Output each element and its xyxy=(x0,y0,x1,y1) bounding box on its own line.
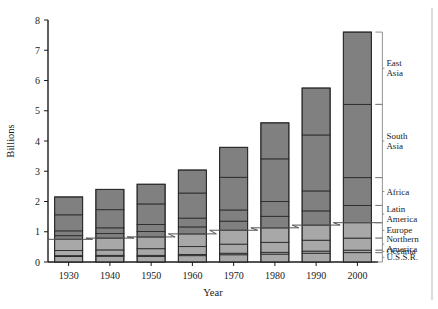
y-tick-label: 3 xyxy=(35,166,40,177)
bar-segment xyxy=(220,255,248,262)
x-tick-label: 2000 xyxy=(347,270,367,281)
y-axis-title: Billions xyxy=(5,124,16,157)
bar-segment xyxy=(302,135,330,191)
bar-segment xyxy=(137,257,165,262)
bar-segment xyxy=(220,210,248,221)
legend-bracket xyxy=(375,205,382,222)
legend-bracket xyxy=(375,104,382,177)
bar-segment xyxy=(137,231,165,236)
legend-label: East xyxy=(386,58,402,68)
bar-segment xyxy=(55,257,83,262)
legend-label: America xyxy=(386,214,417,224)
bar-segment xyxy=(178,193,206,218)
bar-segment xyxy=(302,240,330,251)
bar-segment xyxy=(55,231,83,236)
x-tick-label: 1950 xyxy=(141,270,161,281)
bar-segment xyxy=(178,234,206,247)
bar-segment xyxy=(55,215,83,231)
legend-label: U.S.S.R. xyxy=(386,252,418,262)
x-axis-title: Year xyxy=(203,287,223,298)
bar-segment xyxy=(55,239,83,250)
x-tick-label: 1970 xyxy=(224,270,244,281)
legend-label: Northern xyxy=(386,234,419,244)
bar-segment xyxy=(261,242,289,252)
legend-label: Asia xyxy=(386,141,403,151)
bar-segment xyxy=(220,177,248,210)
bar-segment xyxy=(178,227,206,234)
bar-segment xyxy=(220,147,248,177)
y-tick-label: 8 xyxy=(35,15,40,26)
y-tick-label: 7 xyxy=(35,45,40,56)
y-tick-label: 6 xyxy=(35,75,40,86)
chart-canvas: 012345678Billions19301940195019601970198… xyxy=(0,0,438,309)
x-tick-label: 1980 xyxy=(265,270,285,281)
bar-segment xyxy=(96,250,124,255)
bar-segment xyxy=(220,244,248,253)
x-tick-label: 1940 xyxy=(100,270,120,281)
bar-segment xyxy=(178,256,206,262)
bar-segment xyxy=(343,205,371,222)
legend-label: Asia xyxy=(386,68,403,78)
bar-segment xyxy=(137,224,165,231)
bar-segment xyxy=(302,191,330,211)
bar-segment xyxy=(261,228,289,243)
bar-segment xyxy=(302,225,330,240)
bar-segment xyxy=(55,251,83,256)
legend-label: South xyxy=(386,131,408,141)
bar-segment xyxy=(343,32,371,104)
bar-segment xyxy=(261,202,289,217)
bar-segment xyxy=(96,210,124,228)
bar-segment xyxy=(220,230,248,244)
bar-segment xyxy=(96,189,124,209)
y-tick-label: 2 xyxy=(35,196,40,207)
bar-segment xyxy=(96,228,124,234)
bar-segment xyxy=(55,197,83,215)
bar-segment xyxy=(178,170,206,193)
legend-bracket xyxy=(375,253,382,262)
population-stacked-bar-chart: 012345678Billions19301940195019601970198… xyxy=(0,0,438,309)
bar-segment xyxy=(261,254,289,262)
legend-bracket xyxy=(375,178,382,206)
bar-segment xyxy=(137,184,165,204)
bar-segment xyxy=(261,159,289,202)
legend-bracket xyxy=(375,238,382,250)
legend-label: Africa xyxy=(386,187,409,197)
y-tick-label: 5 xyxy=(35,105,40,116)
bar-segment xyxy=(343,253,371,262)
bar-segment xyxy=(261,123,289,159)
bar-segment xyxy=(137,237,165,249)
legend-bracket xyxy=(375,32,382,104)
x-tick-label: 1990 xyxy=(306,270,326,281)
legend-bracket xyxy=(375,223,382,238)
bar-segment xyxy=(302,253,330,262)
legend-label: Latin xyxy=(386,204,405,214)
bar-segment xyxy=(96,238,124,250)
bar-segment xyxy=(96,234,124,239)
bar-segment xyxy=(137,249,165,256)
bar-segment xyxy=(343,178,371,206)
bar-segment xyxy=(220,221,248,230)
bar-segment xyxy=(96,256,124,262)
y-tick-label: 4 xyxy=(35,136,40,147)
y-tick-label: 1 xyxy=(35,226,40,237)
x-tick-label: 1960 xyxy=(182,270,202,281)
bar-segment xyxy=(261,216,289,227)
bar-segment xyxy=(137,204,165,225)
bar-segment xyxy=(178,247,206,255)
bar-segment xyxy=(55,236,83,240)
bar-segment xyxy=(302,88,330,135)
x-tick-label: 1930 xyxy=(59,270,79,281)
bar-segment xyxy=(343,238,371,250)
y-tick-label: 0 xyxy=(35,257,40,268)
bar-segment xyxy=(178,218,206,227)
bar-segment xyxy=(343,104,371,177)
bar-segment xyxy=(343,223,371,238)
bar-segment xyxy=(302,211,330,225)
